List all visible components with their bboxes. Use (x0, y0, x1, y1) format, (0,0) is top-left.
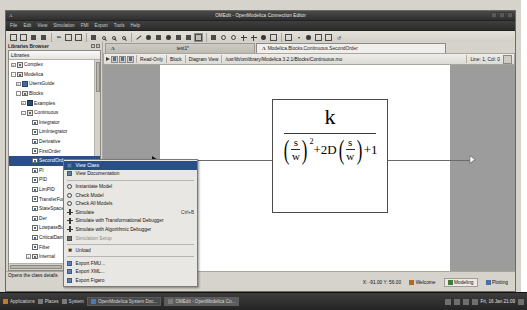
context-menu-item-export-fmu[interactable]: Export FMU... (64, 259, 197, 268)
desktop-taskbar[interactable]: Applications Places System OpenModelica … (0, 292, 527, 310)
menu-fmi[interactable]: FMI (81, 23, 89, 28)
expand-icon[interactable]: + (16, 82, 21, 87)
instantiate-model-icon[interactable] (219, 33, 228, 42)
context-menu-item-instantiate-model[interactable]: Instantiate Model (64, 182, 197, 191)
context-menu-item-simulate[interactable]: SimulateCtrl+B (64, 208, 197, 217)
taskbar-window-omedit[interactable]: OMEdit - OpenModelica Co... (164, 297, 239, 306)
text-shape-icon[interactable] (174, 33, 183, 42)
rotate-icon[interactable]: ↺ (334, 33, 343, 42)
context-menu-item-check-all-models[interactable]: Check All Models (64, 199, 197, 208)
simulate-transformational-icon[interactable] (249, 33, 258, 42)
connect-mode-icon[interactable] (194, 33, 203, 42)
lock-icon[interactable] (503, 55, 512, 64)
menu-view[interactable]: View (37, 23, 47, 28)
perspective-plotting[interactable]: Plotting (482, 278, 513, 287)
menu-export[interactable]: Export (95, 23, 108, 28)
menu-tools[interactable]: Tools (114, 23, 125, 28)
status-right[interactable]: X: -91.00 Y: 56.00 Welcome Modeling Plot… (363, 278, 512, 287)
grid-toggle-icon[interactable] (314, 33, 323, 42)
log-view-icon[interactable] (324, 33, 333, 42)
tree-item-complex[interactable]: +Complex (9, 60, 100, 70)
context-menu-item-view-class[interactable]: View Class (64, 161, 197, 170)
line-shape-icon[interactable] (134, 33, 143, 42)
volume-icon[interactable] (454, 299, 460, 305)
context-menu-item-view-documentation[interactable]: View Documentation (64, 170, 197, 179)
taskbar-places-menu[interactable]: Places (38, 299, 59, 304)
diagram-view-button[interactable] (111, 56, 118, 63)
simulate-icon[interactable] (239, 33, 248, 42)
zoom-out-icon[interactable] (119, 33, 128, 42)
zoom-reset-icon[interactable] (99, 33, 108, 42)
document-toolbar[interactable]: Read-Only Block Diagram View /usr/lib/om… (103, 53, 515, 65)
tab-bar[interactable]: Atest1*AModelica.Blocks.Continuous.Secon… (103, 42, 515, 53)
cut-icon[interactable]: ✂ (54, 33, 63, 42)
tree-item-examples[interactable]: +Examples (9, 98, 100, 108)
close-button[interactable] (507, 12, 513, 18)
workspace-switcher-icon[interactable] (445, 299, 451, 305)
document-toolbar-buttons[interactable] (104, 56, 136, 63)
context-menu-item-simulate-with-algorithmic-debugger[interactable]: Simulate with Algorithmic Debugger (64, 225, 197, 234)
network-icon[interactable] (463, 299, 469, 305)
ellipse-shape-icon[interactable] (164, 33, 173, 42)
battery-icon[interactable] (472, 299, 478, 305)
check-model-icon[interactable] (209, 33, 218, 42)
context-menu-item-export-figaro[interactable]: Export Figaro (64, 276, 197, 285)
class-context-menu[interactable]: View ClassView DocumentationInstantiate … (63, 159, 198, 287)
diagram-paper[interactable]: k ( s w ) 2 (160, 65, 450, 272)
output-port-icon[interactable] (469, 155, 476, 164)
open-model-icon[interactable] (19, 33, 28, 42)
float-dock-icon[interactable] (91, 44, 95, 48)
collapse-icon[interactable]: - (11, 72, 16, 77)
collapse-icon[interactable]: - (16, 91, 21, 96)
context-menu-item-simulation-setup[interactable]: Simulation Setup (64, 234, 197, 243)
expand-icon[interactable]: + (21, 101, 26, 106)
tree-item-derivative[interactable]: Derivative (9, 137, 100, 147)
expand-icon[interactable]: + (26, 254, 31, 259)
tree-horizontal-scroll-thumb[interactable] (10, 265, 62, 269)
new-plot-window-icon[interactable] (284, 33, 293, 42)
expand-icon[interactable]: + (11, 63, 16, 68)
tree-item-modelica[interactable]: -Modelica (9, 70, 100, 80)
menu-simulation[interactable]: Simulation (53, 23, 74, 28)
polygon-shape-icon[interactable] (144, 33, 153, 42)
paste-icon[interactable] (74, 33, 83, 42)
check-all-models-icon[interactable] (229, 33, 238, 42)
shutdown-icon[interactable] (518, 299, 524, 305)
collapse-icon[interactable]: - (21, 111, 26, 116)
back-arrow-icon[interactable] (106, 57, 110, 61)
menu-help[interactable]: Help (131, 23, 140, 28)
perspective-welcome[interactable]: Welcome (405, 278, 439, 287)
dock-buttons[interactable] (91, 44, 101, 48)
perspective-modeling[interactable]: Modeling (444, 278, 478, 287)
system-tray[interactable]: Fri, 16 Jan 21:09 (445, 299, 524, 305)
bitmap-shape-icon[interactable] (184, 33, 193, 42)
grid-lines-icon[interactable] (89, 33, 98, 42)
close-dock-icon[interactable] (96, 44, 100, 48)
menu-bar[interactable]: File Edit View Simulation FMI Export Too… (6, 21, 515, 31)
tree-item-continuous[interactable]: -Continuous (9, 108, 100, 118)
context-menu-item-export-xml[interactable]: Export XML... (64, 268, 197, 277)
menu-file[interactable]: File (10, 23, 17, 28)
copy-icon[interactable] (64, 33, 73, 42)
context-menu-item-simulate-with-transformational-debugger[interactable]: Simulate with Transformational Debugger (64, 217, 197, 226)
tree-item-firstorder[interactable]: FirstOrder (9, 146, 100, 156)
new-modelica-class-icon[interactable] (9, 33, 18, 42)
chevron-down-icon[interactable]: ▾ (294, 33, 303, 42)
tree-item-blocks[interactable]: -Blocks (9, 89, 100, 99)
taskbar-window-doc[interactable]: OpenModelica System Doc... (87, 297, 162, 306)
window-controls[interactable] (491, 12, 513, 18)
taskbar-system-menu[interactable]: System (62, 299, 84, 304)
save-as-icon[interactable] (39, 33, 48, 42)
icon-view-button[interactable] (119, 56, 126, 63)
context-menu-item-unload[interactable]: ✖Unload (64, 246, 197, 255)
tree-item-limintegrator[interactable]: LimIntegrator (9, 127, 100, 137)
tree-item-usersguide[interactable]: +UsersGuide (9, 79, 100, 89)
taskbar-applications-menu[interactable]: Applications (3, 299, 35, 304)
editor-tab-2[interactable]: AModelica.Blocks.Continuous.SecondOrder (256, 43, 446, 53)
maximize-button[interactable] (499, 12, 505, 18)
editor-tab-1[interactable]: Atest1* (105, 43, 255, 53)
secondorder-block[interactable]: k ( s w ) 2 (272, 99, 388, 213)
rectangle-shape-icon[interactable] (154, 33, 163, 42)
save-icon[interactable] (29, 33, 38, 42)
clear-plot-icon[interactable] (304, 33, 313, 42)
